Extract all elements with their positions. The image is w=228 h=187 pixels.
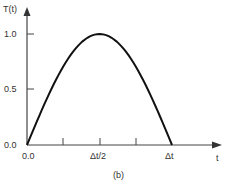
y-tick-label-1: 1.0 [4,29,17,39]
y-axis-arrow-icon [24,7,31,16]
y-axis-label: T(t) [3,4,17,14]
curve-series [27,34,172,145]
x-axis-label: t [216,153,219,163]
x-tick-label-half: Δt/2 [90,151,106,161]
y-tick-label-05: 0.5 [4,84,17,94]
x-tick-label-0: 0.0 [22,151,35,161]
x-axis-arrow-icon [212,142,222,149]
caption: (b) [113,170,124,180]
x-tick-label-full: Δt [165,151,174,161]
y-tick-label-0: 0.0 [4,140,17,150]
chart: T(t) 1.0 0.5 0.0 0.0 Δt/2 Δt t (b) [0,0,228,187]
